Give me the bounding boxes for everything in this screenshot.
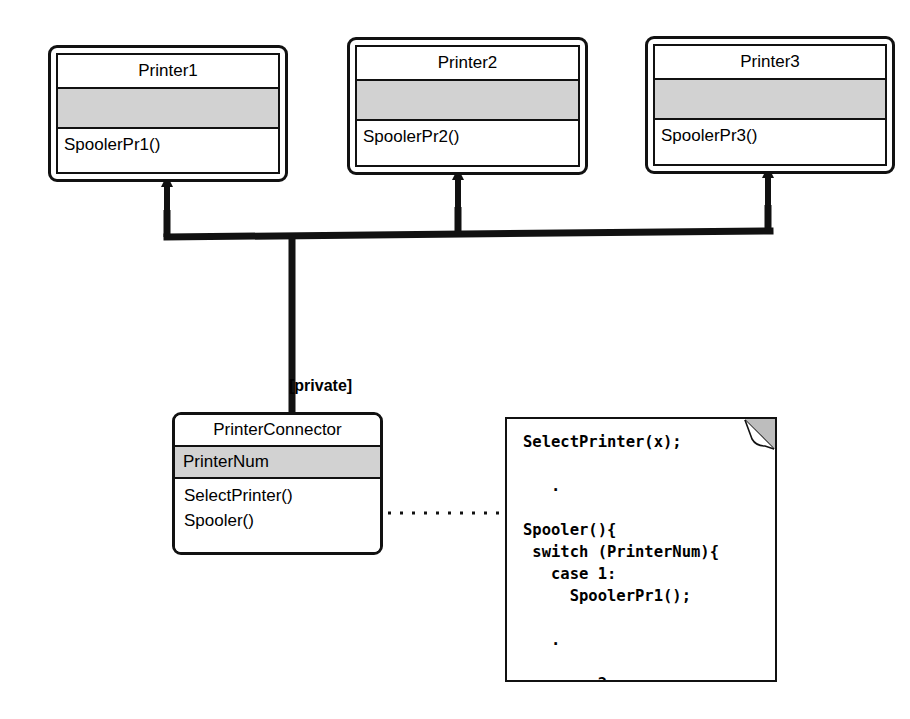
- class-box-printer3[interactable]: Printer3 SpoolerPr3(): [645, 36, 895, 174]
- edge-label-private: [private]: [289, 378, 352, 394]
- class-box-printer-connector[interactable]: PrinterConnector PrinterNum SelectPrinte…: [172, 412, 383, 555]
- class-box-inner: Printer3 SpoolerPr3(): [653, 44, 887, 166]
- class-name-printer1: Printer1: [58, 55, 278, 89]
- class-box-inner: Printer2 SpoolerPr2(): [355, 45, 580, 167]
- class-attributes-printer2: [357, 81, 578, 121]
- class-operations-printer1: SpoolerPr1(): [58, 129, 278, 172]
- class-operations-printer2: SpoolerPr2(): [357, 121, 578, 165]
- class-box-printer2[interactable]: Printer2 SpoolerPr2(): [347, 37, 588, 175]
- code-note-text: SelectPrinter(x); . Spooler(){ switch (P…: [507, 419, 775, 682]
- class-attributes-printer1: [58, 89, 278, 129]
- class-attributes-printer-connector: PrinterNum: [175, 447, 380, 479]
- class-box-printer1[interactable]: Printer1 SpoolerPr1(): [48, 45, 288, 182]
- code-note[interactable]: SelectPrinter(x); . Spooler(){ switch (P…: [505, 417, 777, 682]
- note-fold-corner-icon: [745, 419, 775, 449]
- uml-class-diagram: Printer1 SpoolerPr1() Printer2 SpoolerPr…: [0, 0, 910, 719]
- class-attributes-printer3: [655, 80, 885, 120]
- class-name-printer3: Printer3: [655, 46, 885, 80]
- class-box-inner: Printer1 SpoolerPr1(): [56, 53, 280, 174]
- class-operations-printer3: SpoolerPr3(): [655, 120, 885, 164]
- class-operations-printer-connector: SelectPrinter() Spooler(): [175, 479, 380, 552]
- generalization-bus-line: [167, 231, 770, 237]
- class-name-printer2: Printer2: [357, 47, 578, 81]
- class-name-printer-connector: PrinterConnector: [175, 415, 380, 447]
